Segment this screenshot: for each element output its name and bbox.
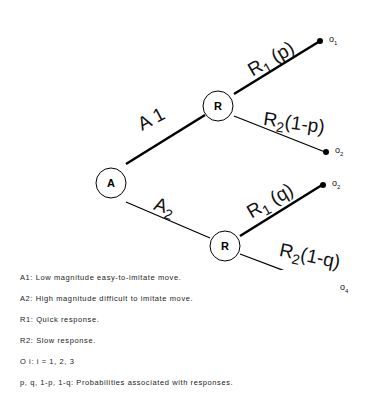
root-node-label: A [107,177,115,189]
legend-item-probabilities: p, q, 1-p, 1-q: Probabilities associated… [20,377,233,398]
outcome-label-1: o1 [329,34,337,46]
legend-item-r2: R2: Slow response. [20,335,233,356]
upper-response-node-label: R [214,100,222,112]
legend-item-a1: A1: Low magnitude easy-to-imitate move. [20,272,233,293]
legend-item-r1: R1: Quick response. [20,314,233,335]
legend-item-a2: A2: High magnitude difficult to imitate … [20,293,233,314]
legend: A1: Low magnitude easy-to-imitate move. … [20,272,233,398]
outcome-label-3: o2 [332,178,340,190]
outcome-label-2: o2 [335,145,343,157]
outcome-label-4: o4 [340,282,348,294]
lower-response-node-label: R [221,240,229,252]
outcome-dot-1 [317,38,323,44]
legend-item-outcomes: O i: i = 1, 2, 3 [20,356,233,377]
outcome-dot-2 [323,149,329,155]
outcome-dot-3 [320,182,326,188]
